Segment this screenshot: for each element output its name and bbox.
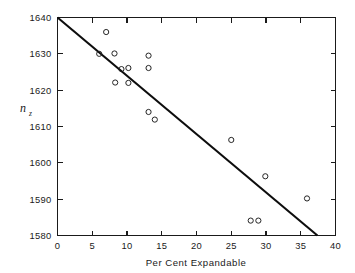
x-tick-label: 30 [260, 240, 271, 251]
x-tick-label: 40 [330, 240, 341, 251]
x-tick-label: 15 [156, 240, 167, 251]
x-tick-label: 0 [55, 240, 61, 251]
y-tick-label: 1600 [29, 157, 51, 168]
x-tick-label: 20 [191, 240, 202, 251]
y-tick-label: 1610 [29, 121, 51, 132]
y-tick-label: 1630 [29, 48, 51, 59]
y-axis-title-subscript: z [28, 109, 32, 118]
y-tick-label: 1640 [29, 12, 51, 23]
x-tick-label: 25 [226, 240, 237, 251]
y-tick-label: 1590 [29, 194, 51, 205]
x-tick-label: 10 [121, 240, 132, 251]
x-tick-label: 35 [295, 240, 306, 251]
y-tick-label: 1580 [29, 230, 51, 241]
y-tick-label: 1620 [29, 85, 51, 96]
scatter-plot: 1580159016001610162016301640 05101520253… [0, 0, 355, 273]
chart-background [0, 0, 355, 273]
x-axis-title: Per Cent Expandable [146, 257, 247, 268]
y-axis-title: n [20, 101, 26, 115]
x-tick-label: 5 [89, 240, 95, 251]
chart-figure: 1580159016001610162016301640 05101520253… [0, 0, 355, 273]
